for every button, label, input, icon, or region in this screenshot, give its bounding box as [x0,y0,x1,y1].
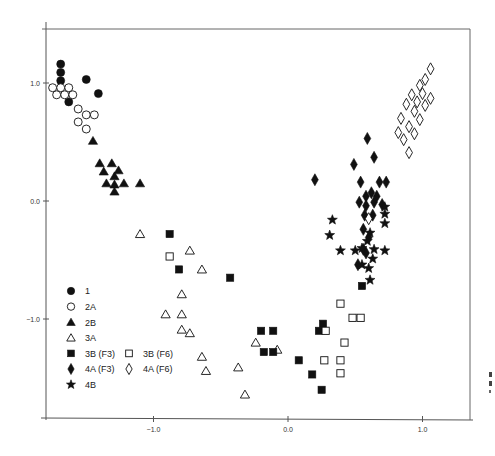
legend-label: 3B (F6) [143,349,173,359]
legend-label: 2B [85,318,96,328]
legend-label: 4A (F3) [85,364,115,374]
circle-point [82,75,90,83]
legend-label: 3A [85,333,96,343]
diamond-point [357,176,364,188]
square-point [341,339,348,346]
circle-point [57,60,65,68]
square-point [227,274,234,281]
scatter-plot: −1.00.01.0 1.00.0−1.0 12A2B3A3B (F3)3B (… [0,0,495,456]
square-point [295,357,302,364]
legend-item: 3B (F6) [126,349,173,359]
square-point [358,282,365,289]
triangle-point [234,363,243,371]
square-point [337,370,344,377]
star-point [380,245,390,254]
square-point [321,357,328,364]
square-point [260,348,267,355]
legend-item: 3A [67,333,96,343]
square-point [270,327,277,334]
star-point [325,230,335,239]
circle-point [94,90,102,98]
y-tick-label: −1.0 [26,316,40,323]
circle-point [57,84,65,92]
circle-legend-icon [67,287,74,294]
legend: 12A2B3A3B (F3)3B (F6)4A (F3)4A (F6)4B [66,286,173,390]
legend-label: 4A (F6) [143,364,173,374]
edge-artifact [489,372,492,393]
circle-point [82,125,90,133]
legend-item: 1 [67,286,90,296]
circle-point [90,111,98,119]
star-point [336,245,346,254]
legend-item: 2A [67,302,96,312]
diamond-point [422,73,429,85]
square-point [166,230,173,237]
diamond-point [427,92,434,104]
square-point [337,357,344,364]
triangle-point [95,159,104,167]
square-legend-icon [68,350,75,357]
triangle-point [99,167,108,175]
data-points [49,60,434,398]
legend-label: 1 [85,286,90,296]
legend-label: 2A [85,302,96,312]
x-tick-label: −1.0 [147,426,161,433]
legend-item: 2B [67,318,96,328]
diamond-point [376,176,383,188]
triangle-point [107,159,116,167]
series-2b [88,136,144,195]
circle-point [65,98,73,106]
square-point [337,300,344,307]
diamond-point [398,112,405,124]
triangle-point [201,367,210,375]
diamond-point [406,121,413,133]
triangle-point [161,310,170,318]
y-tick-label: 0.0 [30,198,40,205]
diamond-point [371,151,378,163]
x-axis [41,418,473,420]
circle-legend-icon [67,303,74,310]
triangle-point [240,390,249,398]
star-point [365,275,375,284]
circle-point [74,118,82,126]
square-point [175,266,182,273]
circle-point [69,91,77,99]
diamond-point [427,63,434,75]
plot-frame [41,22,473,420]
star-point [380,209,390,218]
series-3b-f6- [166,253,364,377]
circle-point [82,111,90,119]
series-2a [49,84,99,133]
square-point [318,386,325,393]
triangle-point [177,310,186,318]
square-point [322,327,329,334]
triangle-point [102,179,111,187]
diamond-point [406,147,413,159]
legend-item: 4A (F3) [68,363,115,374]
triangle-point [197,265,206,273]
circle-point [74,105,82,113]
diamond-legend-icon [68,363,74,374]
square-point [319,320,326,327]
diamond-point [312,174,319,186]
diamond-legend-icon [126,363,132,374]
triangle-point [135,179,144,187]
x-tick-label: 1.0 [418,426,428,433]
triangle-point [197,352,206,360]
diamond-point [422,99,429,111]
series-4a-f3- [312,132,390,270]
x-tick-label: 0.0 [283,426,293,433]
diamond-point [364,132,371,144]
diamond-point [411,128,418,140]
triangle-legend-icon [67,334,76,341]
triangle-point [119,179,128,187]
series-4b [325,202,390,285]
circle-point [65,84,73,92]
star-point [368,254,378,263]
circle-point [61,91,69,99]
triangle-point [185,246,194,254]
circle-point [49,84,57,92]
legend-item: 3B (F3) [68,349,115,359]
diamond-point [351,158,358,170]
square-point [349,314,356,321]
